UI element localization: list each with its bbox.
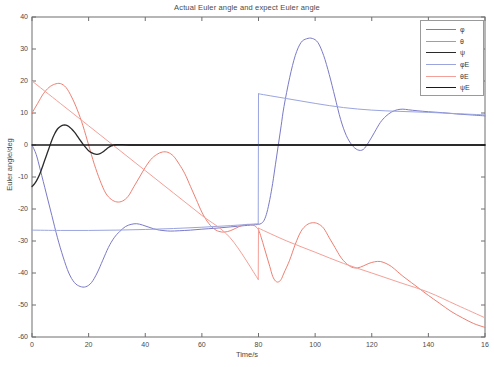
y-tick-label: 20 [8,77,28,84]
legend-swatch-line-icon [426,52,456,53]
legend-item-2[interactable]: ψ [424,47,480,59]
y-tick-label: -50 [8,301,28,308]
x-tick-label: 40 [133,341,157,348]
legend-swatch-line-icon [426,29,456,30]
legend-item-5[interactable]: ψE [424,82,480,94]
figure-canvas: Actual Euler angle and expect Euler angl… [0,0,494,367]
legend-item-1[interactable]: θ [424,36,480,48]
legend-swatch-line-icon [426,64,456,65]
legend-label: φE [460,61,469,68]
x-tick-label: 120 [360,341,384,348]
legend-item-4[interactable]: θE [424,70,480,82]
x-tick-label: 20 [77,341,101,348]
x-axis-label: Time/s [0,350,494,359]
y-tick-label: -30 [8,237,28,244]
x-tick-label: 100 [303,341,327,348]
legend-item-3[interactable]: φE [424,59,480,71]
y-tick-label: 40 [8,13,28,20]
y-tick-label: -60 [8,333,28,340]
x-tick-label: 80 [247,341,271,348]
legend-item-0[interactable]: φ [424,24,480,36]
legend-label: ψ [460,49,465,56]
legend-box: φθψφEθEψE [420,20,484,96]
y-tick-label: 30 [8,45,28,52]
legend-swatch-line-icon [426,87,456,88]
x-tick-label: 0 [20,341,44,348]
series-group [32,38,485,327]
legend-label: ψE [460,84,470,91]
x-tick-label: 140 [416,341,440,348]
y-tick-label: -40 [8,269,28,276]
legend-swatch-line-icon [426,76,456,77]
legend-label: θE [460,73,469,80]
y-axis-label: Euler angle/deg [5,115,14,215]
series-line-3 [32,94,485,231]
legend-label: θ [460,38,464,45]
x-tick-label: 60 [190,341,214,348]
legend-label: φ [460,26,465,33]
x-tick-label: 16 [473,341,494,348]
legend-swatch-line-icon [426,41,456,42]
